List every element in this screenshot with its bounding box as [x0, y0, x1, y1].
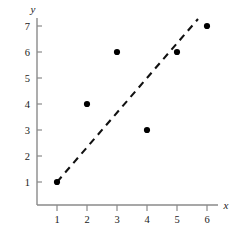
- y-axis-label: y: [30, 3, 36, 15]
- trend-line-dashed: [57, 19, 198, 182]
- trend-line-group: [57, 19, 198, 182]
- data-point: [174, 49, 180, 55]
- data-point: [84, 101, 90, 107]
- data-point: [204, 23, 210, 29]
- y-tick-label-6: 6: [25, 47, 30, 58]
- plot-canvas: 7 6 5 4 3 2 1 y 1 2 3: [0, 0, 238, 237]
- x-tick-label-6: 6: [204, 214, 209, 225]
- y-tick-label-3: 3: [25, 125, 30, 136]
- x-tick-label-1: 1: [54, 214, 59, 225]
- x-tick-label-3: 3: [114, 214, 119, 225]
- x-tick-label-2: 2: [84, 214, 89, 225]
- x-axis-tick-labels: 1 2 3 4 5 6: [54, 214, 209, 225]
- x-axis-ticks: [57, 205, 207, 211]
- y-axis-ticks: [37, 26, 42, 182]
- y-tick-label-1: 1: [25, 177, 30, 188]
- data-points-group: [54, 23, 210, 185]
- y-tick-label-4: 4: [25, 99, 31, 110]
- data-point: [144, 127, 150, 133]
- y-axis-group: 7 6 5 4 3 2 1 y: [25, 3, 42, 205]
- scatter-plot-figure: 7 6 5 4 3 2 1 y 1 2 3: [0, 0, 238, 237]
- x-axis-group: 1 2 3 4 5 6 x: [37, 199, 229, 225]
- y-axis-tick-labels: 7 6 5 4 3 2 1: [25, 21, 31, 188]
- y-tick-label-7: 7: [25, 21, 30, 32]
- data-point: [114, 49, 120, 55]
- x-tick-label-5: 5: [174, 214, 179, 225]
- y-tick-label-5: 5: [25, 73, 30, 84]
- data-point: [54, 179, 60, 185]
- x-tick-label-4: 4: [144, 214, 150, 225]
- x-axis-label: x: [223, 199, 229, 211]
- y-tick-label-2: 2: [25, 151, 30, 162]
